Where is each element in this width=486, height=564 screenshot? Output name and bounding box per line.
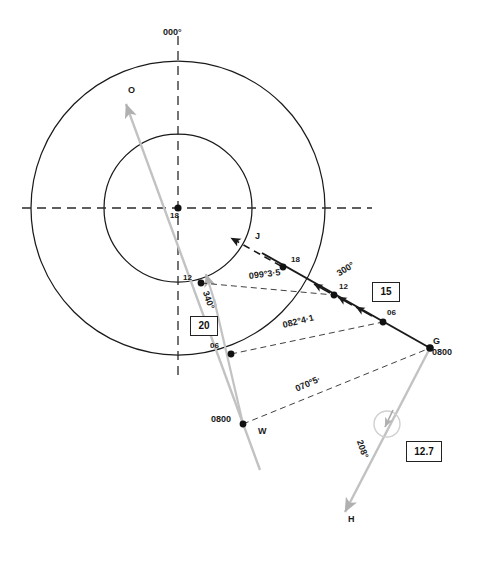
point-w-0800 [240,421,247,428]
w-track-line-lower [214,299,243,424]
time-label-w: 0800 [211,415,231,424]
point-label-g: G [433,337,440,346]
point-w-06 [228,351,235,358]
bearing-line-070 [243,348,430,424]
radar-plot-figure: 000° 18 18 12 06 12 06 O J H G W 0800 08… [0,0,486,564]
radar-plot-canvas [0,0,486,564]
point-label-w-12: 12 [183,274,192,282]
relative-motion-arrow-1 [356,307,372,316]
relative-motion-arrow-3 [314,284,330,293]
speed-box-127: 12.7 [406,441,442,462]
point-label-center: 18 [170,212,179,220]
relative-motion-arrow-2 [338,297,352,305]
time-label-g: 0800 [432,348,452,357]
point-j-12 [331,292,338,299]
point-label-j-12: 12 [339,283,348,291]
point-w-12 [198,280,205,287]
axis-label-north: 000° [163,28,182,37]
g-course-vector-h [345,348,430,512]
point-label-j-18: 18 [291,256,300,264]
point-j-18 [280,264,287,271]
point-j-06 [380,319,387,326]
point-label-w: W [258,427,267,436]
relative-approach-arrow-j [231,238,281,266]
point-label-w-06: 06 [210,342,219,350]
course-marker-arrow [385,410,393,427]
vector-label-o: O [128,86,135,95]
speed-box-20: 20 [190,316,218,336]
point-label-j-06: 06 [387,309,396,317]
vector-label-h: H [348,515,355,524]
speed-box-15: 15 [372,282,400,302]
bearing-line-082 [231,322,383,354]
vector-label-j: J [255,232,260,241]
